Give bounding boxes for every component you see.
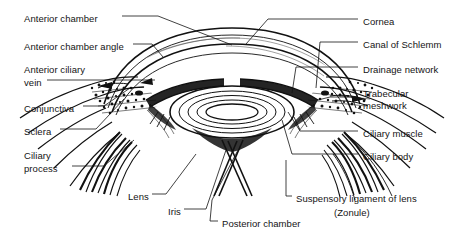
- ciliary-body-right: [288, 104, 317, 138]
- label-zonule: (Zonule): [334, 207, 370, 219]
- anterior-ciliary-vein-arrowhead: [140, 78, 153, 85]
- label-cornea: Cornea: [363, 16, 394, 28]
- label-anterior-ciliary: Anterior ciliary: [24, 64, 85, 76]
- leader-anterior-chamber: [122, 16, 232, 45]
- leader-cornea: [246, 19, 358, 44]
- label-process: process: [24, 163, 58, 175]
- label-ciliary-body: Ciliary body: [363, 151, 413, 163]
- cornea-arcs: [104, 28, 360, 115]
- eye-illustration: [0, 0, 461, 241]
- label-ciliary: Ciliary: [24, 150, 51, 162]
- canal-of-schlemm-left: [135, 90, 143, 95]
- label-posterior-chamber: Posterior chamber: [222, 218, 300, 230]
- leader-suspensory-ligament: [286, 160, 292, 196]
- leader-iris: [184, 150, 226, 209]
- ciliary-body-left: [147, 104, 176, 138]
- label-drainage-network: Drainage network: [363, 64, 438, 76]
- label-anterior-chamber: Anterior chamber: [24, 13, 98, 25]
- lens: [170, 86, 294, 138]
- label-canal-of-schlemm: Canal of Schlemm: [363, 39, 441, 51]
- label-vein: vein: [24, 77, 42, 89]
- label-meshwork: meshwork: [363, 100, 407, 112]
- canal-of-schlemm-right: [321, 90, 329, 95]
- label-iris: Iris: [168, 206, 181, 218]
- label-lens: Lens: [128, 191, 149, 203]
- label-conjunctiva: Conjunctiva: [24, 103, 74, 115]
- label-sclera: Sclera: [24, 126, 51, 138]
- label-suspensory-ligament: Suspensory ligament of lens: [296, 193, 417, 205]
- label-ciliary-muscle: Ciliary muscle: [363, 128, 423, 140]
- leader-lens: [152, 154, 196, 194]
- label-trabecular: Trabecular: [363, 88, 409, 100]
- eye-anatomy-figure: Anterior chamber Anterior chamber angle …: [0, 0, 461, 241]
- label-anterior-chamber-angle: Anterior chamber angle: [24, 41, 124, 53]
